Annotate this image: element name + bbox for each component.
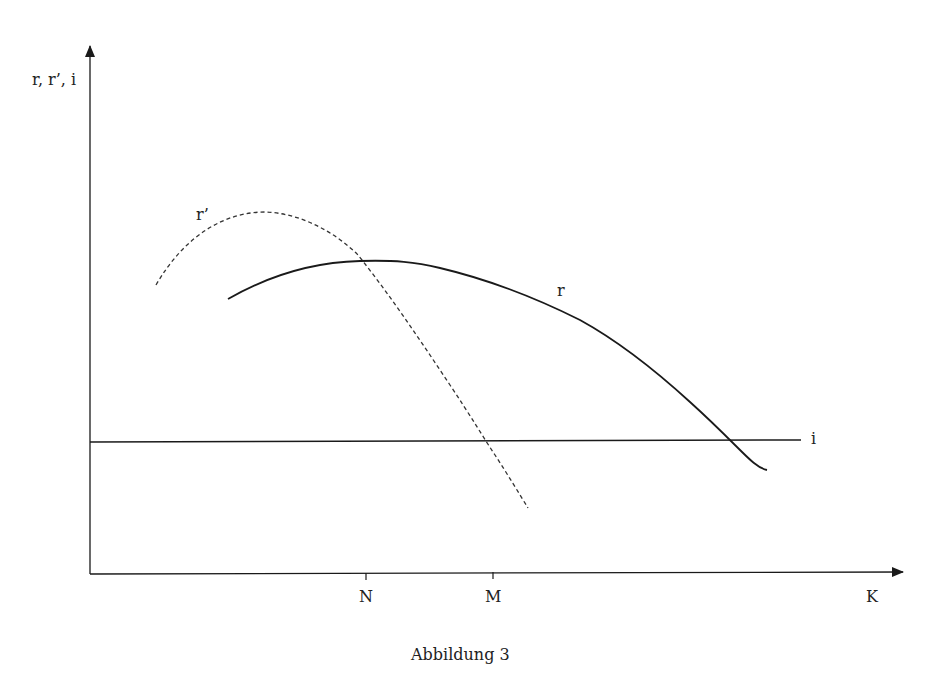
diagram-canvas: r, r’, i K N M r’ r i Abbildung 3 <box>0 0 929 699</box>
y-axis-label: r, r’, i <box>32 70 76 89</box>
x-tick-label-m: M <box>485 587 501 606</box>
curve-label-i: i <box>811 429 816 448</box>
x-axis-label: K <box>866 587 879 606</box>
curve-r-prime <box>156 212 528 508</box>
interest-rate-line-i <box>90 440 801 442</box>
curve-label-r: r <box>557 281 565 300</box>
figure-caption: Abbildung 3 <box>410 645 510 664</box>
curve-label-r-prime: r’ <box>196 205 209 224</box>
x-tick-label-n: N <box>359 587 373 606</box>
curve-r <box>228 261 767 470</box>
x-axis <box>90 572 903 574</box>
